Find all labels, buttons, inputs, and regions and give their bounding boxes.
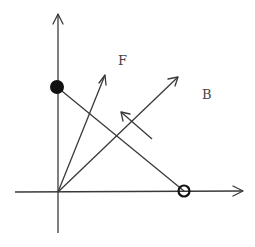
label-f: F	[118, 54, 127, 67]
vector-b	[58, 77, 178, 192]
vertical-axis	[53, 14, 63, 233]
label-b: B	[202, 88, 212, 101]
vector-f	[58, 75, 106, 192]
vector-diagram	[0, 0, 255, 247]
horizontal-axis	[15, 186, 243, 196]
filled-point	[50, 80, 64, 94]
